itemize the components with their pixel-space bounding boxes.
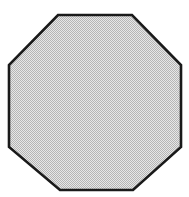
octagon-figure [0, 0, 189, 197]
image-canvas [0, 0, 189, 197]
octagon-dither-texture [9, 15, 181, 190]
